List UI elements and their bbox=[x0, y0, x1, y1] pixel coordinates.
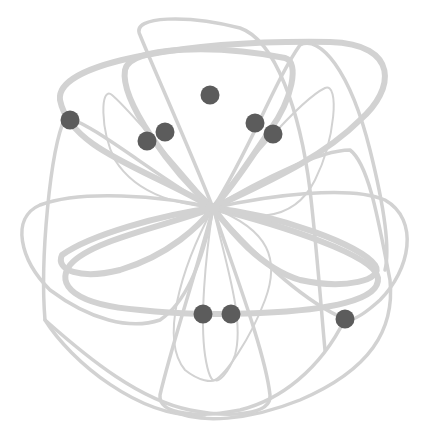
loop-diagram bbox=[0, 0, 427, 432]
center-hub bbox=[208, 203, 218, 213]
loops-layer bbox=[22, 19, 407, 419]
node-4-dot bbox=[201, 86, 220, 105]
node-5-dot bbox=[246, 114, 265, 133]
diagram-canvas bbox=[0, 0, 427, 432]
node-9-dot bbox=[336, 310, 355, 329]
loop-lower-left-thick bbox=[65, 208, 378, 314]
node-2-dot bbox=[138, 132, 157, 151]
node-7-dot bbox=[194, 305, 213, 324]
node-1-dot bbox=[61, 111, 80, 130]
node-3-dot bbox=[156, 123, 175, 142]
node-8-dot bbox=[222, 305, 241, 324]
node-6-dot bbox=[264, 125, 283, 144]
